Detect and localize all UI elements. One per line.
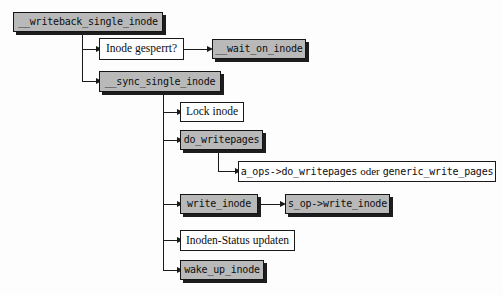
node-label: __writeback_single_inode	[18, 17, 158, 27]
node-label-part-code-1: a_ops->do_writepages	[241, 167, 357, 177]
node-a-ops-do-writepages[interactable]: a_ops->do_writepages oder generic_write_…	[238, 161, 496, 182]
node-label: do_writepages	[184, 135, 260, 145]
node-label: s_op->write_inode	[288, 199, 387, 209]
node-label: wake_up_inode	[184, 265, 260, 275]
node-label: Inoden-Status updaten	[186, 235, 289, 247]
node-wait-on-inode[interactable]: __wait_on_inode	[212, 39, 306, 59]
edge-sync-spine	[163, 92, 164, 271]
node-label: Inode gesperrt?	[106, 43, 177, 55]
node-inoden-status-updaten[interactable]: Inoden-Status updaten	[180, 230, 295, 251]
node-label: write_inode	[187, 199, 251, 209]
node-label: __wait_on_inode	[215, 44, 302, 54]
node-lock-inode[interactable]: Lock inode	[180, 102, 244, 122]
node-sync-single-inode[interactable]: __sync_single_inode	[99, 71, 221, 92]
node-inode-gesperrt[interactable]: Inode gesperrt?	[99, 38, 184, 60]
node-label: Lock inode	[186, 106, 238, 118]
node-write-inode[interactable]: write_inode	[180, 194, 258, 214]
node-wake-up-inode[interactable]: wake_up_inode	[180, 260, 264, 280]
node-label: __sync_single_inode	[105, 77, 216, 87]
flow-diagram: __writeback_single_inode Inode gesperrt?…	[0, 0, 503, 295]
node-s-op-write-inode[interactable]: s_op->write_inode	[285, 194, 390, 214]
edge-writepages-drop	[218, 152, 219, 171]
node-label-part-code-2: generic_write_pages	[383, 167, 494, 177]
edge-writeback-trunk	[82, 32, 83, 82]
node-writeback-single-inode[interactable]: __writeback_single_inode	[13, 12, 163, 32]
node-label-part-oder: oder	[357, 166, 383, 177]
node-do-writepages[interactable]: do_writepages	[180, 130, 263, 150]
